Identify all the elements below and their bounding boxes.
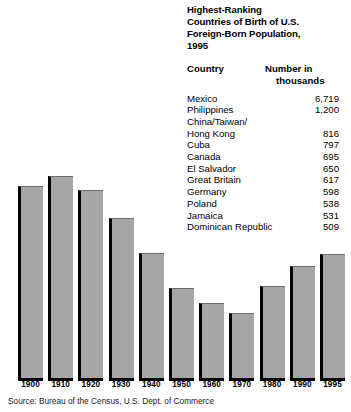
x-axis-label-1910: 1910 [44,380,77,389]
x-axis-label-1970: 1970 [225,380,258,389]
bar-rect-1950 [169,288,194,378]
chart-x-axis: 1900191019201930194019501960197019801990… [8,380,342,392]
bar-rect-1910 [48,176,73,378]
table-title: Highest-Ranking Countries of Birth of U.… [187,4,351,52]
x-axis-label-1920: 1920 [74,380,107,389]
table-cell-country: El Salvador [187,163,279,175]
table-row: Jamaica531 [187,210,351,222]
bar-rect-1970 [229,313,254,378]
table-header-number: Number in thousands [265,63,349,86]
table-cell-value: 531 [279,210,339,222]
table-cell-value: 598 [279,186,339,198]
table-cell-value: 538 [279,198,339,210]
table-row: El Salvador650 [187,163,351,175]
bar-1940 [139,150,164,378]
x-axis-label-1995: 1995 [316,380,349,389]
table-cell-country: Canada [187,151,279,163]
table-row: Germany598 [187,186,351,198]
table-panel: Highest-Ranking Countries of Birth of U.… [187,4,351,233]
x-axis-label-1940: 1940 [135,380,168,389]
table-cell-country: Mexico [187,93,279,105]
table-cell-country: Jamaica [187,210,279,222]
table-row: Hong Kong816 [187,128,351,140]
bar-rect-1940 [139,253,164,378]
table-row: China/Taiwan/ [187,116,351,128]
table-cell-value: 650 [279,163,339,175]
table-cell-country: Dominican Republic [187,221,279,233]
table-cell-value [279,116,339,128]
x-axis-label-1950: 1950 [165,380,198,389]
table-cell-country: Philippines [187,104,279,116]
table-row: Dominican Republic509 [187,221,351,233]
x-axis-label-1990: 1990 [286,380,319,389]
table-row: Mexico6,719 [187,93,351,105]
table-row: Canada695 [187,151,351,163]
table-row: Cuba797 [187,139,351,151]
table-cell-value: 695 [279,151,339,163]
bar-1910 [48,150,73,378]
table-cell-value: 509 [279,221,339,233]
table-header-number-line2: thousands [265,75,349,87]
x-axis-label-1980: 1980 [256,380,289,389]
table-cell-country: Great Britain [187,174,279,186]
table-row: Great Britain617 [187,174,351,186]
table-cell-country: China/Taiwan/ [187,116,279,128]
x-axis-label-1960: 1960 [195,380,228,389]
bar-1900 [18,150,43,378]
bar-rect-1960 [199,303,224,378]
table-header-row: Country Number in thousands [187,63,351,86]
table-cell-value: 1,200 [279,104,339,116]
x-axis-label-1930: 1930 [105,380,138,389]
table-header-country: Country [187,63,265,86]
source-note: Source: Bureau of the Census, U.S. Dept.… [8,396,214,406]
bar-rect-1980 [260,286,285,378]
table-cell-value: 797 [279,139,339,151]
table-cell-country: Germany [187,186,279,198]
table-cell-value: 6,719 [279,93,339,105]
bar-chart: 1900191019201930194019501960197019801990… [0,0,187,412]
table-row: Philippines1,200 [187,104,351,116]
table-cell-country: Hong Kong [187,128,279,140]
bar-1920 [78,150,103,378]
table-body: Mexico6,719Philippines1,200China/Taiwan/… [187,93,351,233]
table-cell-value: 617 [279,174,339,186]
x-axis-label-1900: 1900 [14,380,47,389]
bar-rect-1990 [290,266,315,378]
bar-rect-1920 [78,190,103,378]
table-cell-country: Cuba [187,139,279,151]
table-cell-country: Poland [187,198,279,210]
bar-rect-1995 [320,254,345,378]
bar-rect-1900 [18,186,43,378]
bar-rect-1930 [109,218,134,378]
bar-1930 [109,150,134,378]
table-row: Poland538 [187,198,351,210]
table-header-number-line1: Number in [265,63,312,74]
table-cell-value: 816 [279,128,339,140]
